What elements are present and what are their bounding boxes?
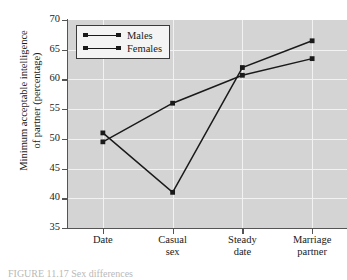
series-line-males — [103, 41, 312, 193]
data-point-marker — [170, 101, 175, 106]
data-point-marker — [310, 38, 315, 43]
data-point-marker — [310, 56, 315, 61]
data-point-marker — [240, 65, 245, 70]
figure-line-chart: Minimum acceptable intelligence of partn… — [0, 0, 347, 280]
legend: Males Females — [76, 25, 170, 59]
legend-item-females: Females — [82, 42, 162, 55]
legend-item-males: Males — [82, 29, 162, 42]
legend-symbol-line-marker-icon — [82, 30, 122, 41]
data-point-marker — [240, 73, 245, 78]
legend-label-females: Females — [127, 43, 162, 54]
data-point-marker — [100, 131, 105, 136]
legend-label-males: Males — [127, 30, 153, 41]
legend-symbol-line-marker-icon — [82, 43, 122, 54]
data-series-layer — [0, 0, 347, 280]
figure-caption: FIGURE 11.17 Sex differences — [8, 268, 347, 279]
data-point-marker — [170, 190, 175, 195]
data-point-marker — [100, 139, 105, 144]
